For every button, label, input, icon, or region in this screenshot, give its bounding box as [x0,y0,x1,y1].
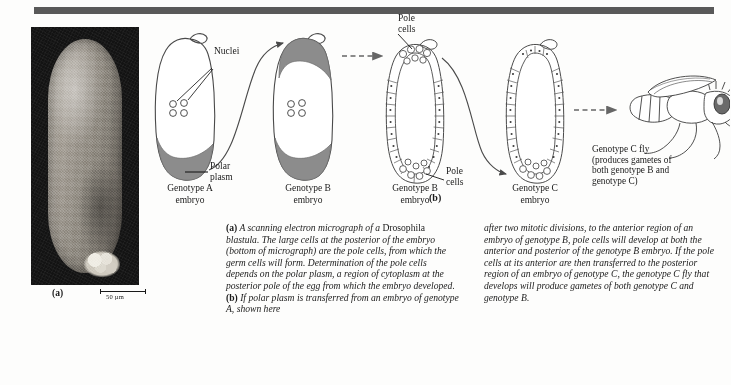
top-divider-rule [34,7,714,14]
caption-embryo-genotype-b: Genotype B embryo [268,183,348,206]
figure-caption-column-left: (a) A scanning electron micrograph of a … [226,222,460,315]
embryo-genotype-a-drawing [155,34,214,181]
caption-text-part2: blastula. The large cells at the posteri… [226,234,455,291]
scale-bar-line [100,291,146,292]
caption-text-right: after two mitotic divisions, to the ante… [484,222,718,303]
embryo-genotype-b-drawing [273,34,332,181]
panel-b-label: (b) [429,192,441,203]
caption-adult-fly: Genotype C fly (produces gametes of both… [592,144,722,186]
micrograph-panel-a [31,27,139,285]
caption-embryo-genotype-b-blastoderm: Genotype B embryo [375,183,455,206]
panel-a-label: (a) [52,288,63,298]
caption-text-part1: A scanning electron micrograph of a [237,222,382,233]
label-pole-cells-anterior: Pole cells [398,13,415,35]
scale-bar: 50 µm [98,289,150,303]
caption-text-part3: If polar plasm is transferred from an em… [226,292,459,315]
embryo-genotype-b-blastoderm-drawing [386,34,445,183]
figure-caption: (a) A scanning electron micrograph of a … [226,222,718,315]
embryo-genotype-c-blastoderm-drawing [506,40,565,184]
caption-marker-b: (b) [226,292,238,303]
figure-page: (a) 50 µm [0,0,731,385]
caption-marker-a: (a) [226,222,237,233]
figure-caption-column-right: after two mitotic divisions, to the ante… [484,222,718,315]
label-polar-plasm: Polar plasm [210,161,233,183]
scale-bar-tick-right [145,289,146,294]
pole-cells-region [84,251,120,277]
polar-plasm-transfer-arrow [209,43,283,170]
caption-embryo-genotype-a: Genotype A embryo [150,183,230,206]
pole-cell-transfer-arrow [442,58,506,174]
drosophila-blastula-image [48,39,122,273]
scale-bar-label: 50 µm [106,293,124,300]
caption-embryo-genotype-c-blastoderm: Genotype C embryo [495,183,575,206]
caption-species-name: Drosophila [382,222,425,233]
label-nuclei: Nuclei [214,46,239,57]
